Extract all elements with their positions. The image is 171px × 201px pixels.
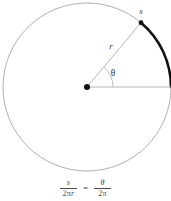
- equals-sign: =: [82, 184, 89, 193]
- fraction-right-numerator: θ: [98, 179, 106, 188]
- fraction-right: θ 2π: [94, 179, 111, 198]
- fraction-left-numerator: s: [65, 179, 72, 188]
- arc-label-s: s: [139, 6, 143, 16]
- radius-label-r: r: [109, 41, 113, 51]
- fraction-left-denominator: 2πr: [61, 189, 77, 198]
- fraction-left-denominator-coefficient: 2π: [63, 189, 71, 198]
- fraction-left-denominator-variable: r: [71, 189, 74, 198]
- arc-endpoint-dot: [139, 20, 144, 25]
- formula-equation: s 2πr = θ 2π: [0, 176, 171, 201]
- fraction-right-denominator: 2π: [96, 189, 108, 198]
- arc-highlight-s: [141, 23, 171, 87]
- fraction-right-denominator-coefficient: 2π: [98, 189, 106, 198]
- center-dot: [84, 84, 90, 90]
- fraction-left: s 2πr: [60, 179, 77, 198]
- angle-label-theta: θ: [111, 68, 116, 78]
- figure-root: s r θ s 2πr = θ 2π: [0, 0, 171, 201]
- circle-arc-diagram: s r θ: [0, 0, 171, 201]
